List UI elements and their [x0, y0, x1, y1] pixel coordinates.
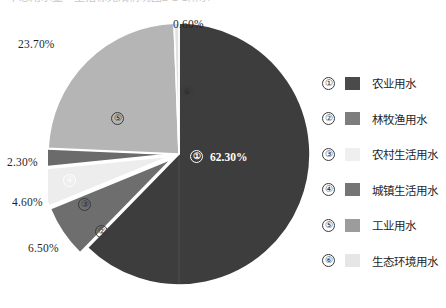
slice-value-3: 4.60% — [12, 196, 43, 208]
slice-label-1: ① 62.30% — [190, 150, 247, 163]
slice-value-5: 23.70% — [18, 38, 55, 50]
legend-index-2: ② — [322, 112, 335, 125]
legend-swatch-2 — [345, 112, 360, 125]
legend-item-2: ② 林牧渔用水 — [322, 108, 446, 130]
slice-value-6: 0.60% — [173, 18, 204, 30]
pie-chart: 0.60% 23.70% 2.30% 4.60% 6.50% ① 62.30% … — [0, 14, 446, 308]
legend-label-1: 农业用水 — [372, 75, 416, 91]
legend-index-5: ⑤ — [322, 219, 335, 232]
legend: ① 农业用水 ② 林牧渔用水 ③ 农村生活用水 ④ 城镇生活用水 ⑤ 工业用水 … — [322, 72, 446, 285]
pie-svg — [48, 14, 310, 294]
slice-index-4: ④ — [63, 174, 76, 187]
pie-slice-group — [48, 23, 310, 285]
legend-swatch-6 — [345, 254, 360, 267]
slice-index-1: ① — [190, 150, 203, 163]
slice-index-5: ⑤ — [111, 112, 124, 125]
slice-index-3: ③ — [78, 198, 91, 211]
slice-index-2: ② — [95, 225, 108, 238]
legend-index-1: ① — [322, 77, 335, 90]
legend-index-6: ⑥ — [322, 254, 335, 267]
legend-swatch-5 — [345, 219, 360, 232]
legend-item-1: ① 农业用水 — [322, 72, 446, 94]
legend-item-4: ④ 城镇生活用水 — [322, 179, 446, 201]
legend-item-5: ⑤ 工业用水 — [322, 214, 446, 236]
legend-label-2: 林牧渔用水 — [372, 111, 427, 127]
legend-label-4: 城镇生活用水 — [372, 182, 438, 198]
legend-label-6: 生态环境用水 — [372, 253, 438, 269]
legend-label-5: 工业用水 — [372, 217, 416, 233]
slice-value-2: 6.50% — [28, 242, 59, 254]
legend-swatch-4 — [345, 183, 360, 196]
legend-swatch-3 — [345, 148, 360, 161]
legend-item-3: ③ 农村生活用水 — [322, 143, 446, 165]
slice-index-6: ⑥ — [180, 86, 193, 99]
legend-label-3: 农村生活用水 — [372, 146, 438, 162]
pie-slice-5 — [48, 23, 179, 154]
slice-value-4: 2.30% — [7, 156, 38, 168]
legend-index-4: ④ — [322, 183, 335, 196]
slice-value-1: 62.30% — [210, 151, 247, 163]
legend-index-3: ③ — [322, 148, 335, 161]
legend-item-6: ⑥ 生态环境用水 — [322, 250, 446, 272]
legend-swatch-1 — [345, 77, 360, 90]
top-caption: 中总用水量一里指标完成情况图2-1-1所示 — [8, 0, 210, 3]
